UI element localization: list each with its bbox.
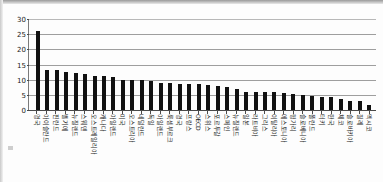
bar-slot <box>222 20 231 111</box>
scan-edge-top <box>0 0 383 4</box>
x-axis-label-slot: 독일 <box>146 114 156 172</box>
bar <box>329 97 333 111</box>
bar-series <box>30 20 376 111</box>
bar <box>282 93 286 111</box>
x-axis-label-slot: 폴란드 <box>308 114 318 172</box>
bar <box>140 80 144 111</box>
bar <box>168 83 172 111</box>
bar <box>130 80 134 111</box>
bar-slot <box>90 20 99 111</box>
x-axis-label: 체코 <box>338 114 344 126</box>
x-axis-label: 한국 <box>328 114 334 126</box>
x-axis-label-slot: 벨기에 <box>61 114 71 172</box>
bar-slot <box>80 20 89 111</box>
bar <box>320 97 324 111</box>
x-axis-label-slot: 룩셈부르크 <box>165 114 175 172</box>
x-axis-label: 오스트리아 <box>129 114 135 143</box>
bar <box>254 92 258 111</box>
x-axis-label-slot: 그리스 <box>260 114 270 172</box>
x-axis-label: 폴란드 <box>309 114 315 131</box>
bar <box>121 80 125 111</box>
x-axis-label-slot: 슬로바키아 <box>346 114 356 172</box>
bar-slot <box>203 20 212 111</box>
x-axis-label-slot: 아일랜드 <box>156 114 166 172</box>
x-axis-label: 뉴질랜드 <box>72 114 78 137</box>
x-axis-label-slot: 오스트리아 <box>127 114 137 172</box>
bar-slot <box>137 20 146 111</box>
bar <box>225 87 229 111</box>
bar-slot <box>364 20 373 111</box>
x-axis-label-slot: 헝가리 <box>289 114 299 172</box>
chart-figure: 051015202530 영국아이슬란드핀란드벨기에뉴질랜드스웨덴오스트레일리아… <box>0 0 383 182</box>
bar-slot <box>241 20 250 111</box>
x-axis-label-slot: 포르투갈 <box>213 114 223 172</box>
x-axis-label: 슬로베니아 <box>300 114 306 143</box>
x-axis-label-slot: 오스트레일리아 <box>89 114 99 172</box>
x-axis-label-slot: 뉴질랜드 <box>232 114 242 172</box>
bar <box>272 92 276 111</box>
bar-slot <box>147 20 156 111</box>
x-axis-label-slot: 스위스 <box>203 114 213 172</box>
x-axis-label-slot: 뉴질랜드 <box>70 114 80 172</box>
bar-slot <box>336 20 345 111</box>
x-axis-label: 라트비아 <box>252 114 258 137</box>
bar-slot <box>61 20 70 111</box>
y-axis-tick-mark <box>27 80 29 81</box>
bar-slot <box>42 20 51 111</box>
x-axis-label-slot: 이탈리아 <box>270 114 280 172</box>
y-axis-tick-label: 10 <box>17 77 29 84</box>
bar-slot <box>194 20 203 111</box>
x-axis-label-slot: 터키 <box>317 114 327 172</box>
x-axis-label: 미국 <box>119 114 125 126</box>
x-axis-label-slot: 캐나다 <box>99 114 109 172</box>
y-axis-tick-mark <box>27 95 29 96</box>
y-axis-tick-label: 20 <box>17 47 29 54</box>
x-axis-label: 독일 <box>148 114 154 126</box>
plot-area: 051015202530 <box>28 19 376 111</box>
bar-slot <box>345 20 354 111</box>
x-axis-label: 에스토니아 <box>281 114 287 143</box>
bar <box>93 76 97 111</box>
x-axis-label: 스위스 <box>205 114 211 131</box>
x-axis-label: 스웨덴 <box>81 114 87 131</box>
x-axis-label-slot: OECD <box>194 114 204 172</box>
bar-slot <box>327 20 336 111</box>
x-axis-label-slot: 라트비아 <box>251 114 261 172</box>
x-axis-label: 캐나다 <box>100 114 106 131</box>
bar-slot <box>175 20 184 111</box>
x-axis-label: 포르투갈 <box>214 114 220 137</box>
bar-slot <box>128 20 137 111</box>
x-axis-label: 헝가리 <box>290 114 296 131</box>
bar-slot <box>355 20 364 111</box>
x-axis-label: 핀란드 <box>53 114 59 131</box>
x-axis-label-slot: 슬로베니아 <box>298 114 308 172</box>
y-axis-tick-label: 0 <box>22 108 29 115</box>
x-axis-label-slot: 스웨덴 <box>80 114 90 172</box>
bar <box>187 84 191 111</box>
x-axis-label: 멕시코 <box>366 114 372 131</box>
bar-slot <box>308 20 317 111</box>
bar-slot <box>213 20 222 111</box>
y-axis-tick-label: 25 <box>17 32 29 39</box>
x-axis-label-slot: 핀란드 <box>51 114 61 172</box>
bar-slot <box>260 20 269 111</box>
bar <box>83 74 87 111</box>
bar-slot <box>289 20 298 111</box>
bar-slot <box>99 20 108 111</box>
bar-slot <box>156 20 165 111</box>
x-axis-label: 슬로바키아 <box>347 114 353 143</box>
x-axis-label: 그리스 <box>262 114 268 131</box>
y-axis-tick-label: 5 <box>22 92 29 99</box>
x-axis-label-slot: 에스토니아 <box>279 114 289 172</box>
x-axis-label: OECD <box>195 114 201 131</box>
x-axis-label: 아이슬란드 <box>43 114 49 143</box>
bar <box>102 76 106 111</box>
bar-slot <box>279 20 288 111</box>
x-axis-label: 아일랜드 <box>110 114 116 137</box>
bar <box>64 72 68 111</box>
x-axis-label: 네덜란드 <box>138 114 144 137</box>
x-axis-label-slot: 네덜란드 <box>137 114 147 172</box>
y-axis-tick-label: 15 <box>17 62 29 69</box>
x-axis-label: 뉴질랜드 <box>233 114 239 137</box>
scan-edge-left <box>0 0 3 182</box>
